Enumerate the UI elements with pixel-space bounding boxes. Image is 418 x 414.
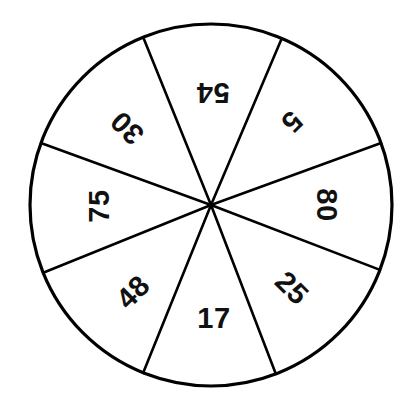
spinner-figure: 543075481725805: [0, 0, 418, 414]
spinner-wheel-svg: 543075481725805: [0, 0, 418, 414]
sector-label-54: 54: [196, 77, 229, 109]
sector-label-17: 17: [197, 302, 230, 334]
sector-label-80: 80: [311, 188, 343, 221]
sector-label-75: 75: [83, 189, 115, 222]
